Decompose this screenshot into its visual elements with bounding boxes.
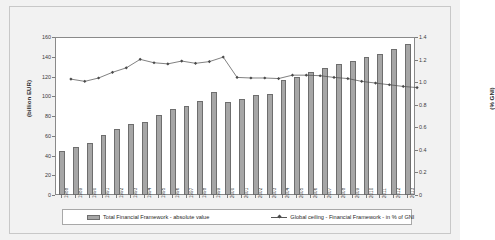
x-tick-mark xyxy=(130,195,131,198)
bar xyxy=(197,101,203,195)
y-tick-mark-right xyxy=(415,105,418,106)
y-tick-mark-right xyxy=(415,82,418,83)
bar xyxy=(114,129,120,195)
bar xyxy=(128,124,134,195)
bar xyxy=(405,44,411,195)
y-tick-label-left: 60 xyxy=(35,133,51,139)
y-tick-mark-right xyxy=(415,195,418,196)
y-tick-label-right: 1.2 xyxy=(419,57,435,63)
x-tick-mark xyxy=(324,195,325,198)
y-tick-mark-left xyxy=(52,156,55,157)
y-tick-mark-right xyxy=(415,60,418,61)
bar xyxy=(184,106,190,195)
y-tick-label-left: 0 xyxy=(35,192,51,198)
y-tick-mark-left xyxy=(52,77,55,78)
x-tick-mark xyxy=(116,195,117,198)
x-tick-mark xyxy=(407,195,408,198)
legend-item-bar: Total Financial Framework - absolute val… xyxy=(87,214,209,220)
bar xyxy=(350,61,356,195)
y-axis-label-right: (% GNI) xyxy=(488,39,495,159)
x-tick-mark xyxy=(158,195,159,198)
y-tick-label-left: 160 xyxy=(35,34,51,40)
y-tick-mark-left xyxy=(52,195,55,196)
x-tick-mark xyxy=(282,195,283,198)
legend-bar-label: Total Financial Framework - absolute val… xyxy=(103,214,209,220)
y-tick-label-left: 80 xyxy=(35,113,51,119)
y-tick-mark-left xyxy=(52,116,55,117)
bar xyxy=(170,109,176,195)
x-tick-mark xyxy=(172,195,173,198)
bar xyxy=(281,80,287,195)
bar xyxy=(294,77,300,196)
bar xyxy=(142,122,148,195)
bar xyxy=(239,99,245,195)
plot-area xyxy=(55,37,415,195)
bar xyxy=(253,95,259,195)
x-tick-mark xyxy=(144,195,145,198)
y-tick-label-right: 0.4 xyxy=(419,147,435,153)
x-tick-mark xyxy=(102,195,103,198)
y-tick-label-right: 0 xyxy=(419,192,435,198)
x-tick-mark xyxy=(269,195,270,198)
x-tick-mark xyxy=(296,195,297,198)
bar xyxy=(364,57,370,195)
y-tick-label-right: 0.6 xyxy=(419,124,435,130)
y-axis-label-left: (billion EUR) xyxy=(25,39,32,159)
y-tick-label-left: 120 xyxy=(35,74,51,80)
x-tick-mark xyxy=(75,195,76,198)
bar xyxy=(391,49,397,195)
bar xyxy=(377,54,383,195)
y-tick-label-right: 1.4 xyxy=(419,34,435,40)
bar xyxy=(87,143,93,195)
y-tick-label-left: 20 xyxy=(35,172,51,178)
x-tick-mark xyxy=(379,195,380,198)
y-tick-label-right: 0.2 xyxy=(419,169,435,175)
x-tick-mark xyxy=(255,195,256,198)
x-tick-mark xyxy=(338,195,339,198)
bar xyxy=(322,68,328,195)
x-tick-mark xyxy=(393,195,394,198)
y-tick-label-left: 100 xyxy=(35,93,51,99)
legend-line-swatch-icon xyxy=(271,214,287,220)
chart-legend: Total Financial Framework - absolute val… xyxy=(62,209,412,225)
y-tick-mark-right xyxy=(415,150,418,151)
bar xyxy=(101,135,107,195)
line-marker xyxy=(415,86,418,89)
x-tick-mark xyxy=(227,195,228,198)
x-tick-mark xyxy=(213,195,214,198)
x-tick-mark xyxy=(352,195,353,198)
bar xyxy=(225,102,231,195)
y-tick-label-left: 40 xyxy=(35,153,51,159)
bar xyxy=(308,72,314,195)
x-tick-mark xyxy=(241,195,242,198)
legend-line-label: Global ceiling - Financial Framework - i… xyxy=(290,214,414,220)
y-tick-mark-left xyxy=(52,57,55,58)
legend-bar-swatch-icon xyxy=(87,215,100,220)
bar xyxy=(267,94,273,195)
bar xyxy=(156,115,162,195)
y-tick-mark-left xyxy=(52,136,55,137)
bar xyxy=(336,64,342,195)
x-tick-mark xyxy=(199,195,200,198)
bar xyxy=(73,147,79,195)
y-tick-mark-left xyxy=(52,175,55,176)
y-tick-mark-left xyxy=(52,37,55,38)
x-tick-mark xyxy=(366,195,367,198)
bar xyxy=(211,92,217,195)
y-tick-label-right: 0.8 xyxy=(419,102,435,108)
y-tick-mark-right xyxy=(415,127,418,128)
x-tick-mark xyxy=(61,195,62,198)
y-tick-mark-left xyxy=(52,96,55,97)
legend-item-line: Global ceiling - Financial Framework - i… xyxy=(271,214,414,220)
chart-frame: (billion EUR) (% GNI) 020406080100120140… xyxy=(9,6,451,234)
y-tick-label-right: 1.0 xyxy=(419,79,435,85)
y-tick-mark-right xyxy=(415,37,418,38)
x-tick-mark xyxy=(186,195,187,198)
y-tick-label-left: 140 xyxy=(35,54,51,60)
bar xyxy=(59,151,65,195)
x-tick-mark xyxy=(310,195,311,198)
y-tick-mark-right xyxy=(415,172,418,173)
x-tick-mark xyxy=(89,195,90,198)
